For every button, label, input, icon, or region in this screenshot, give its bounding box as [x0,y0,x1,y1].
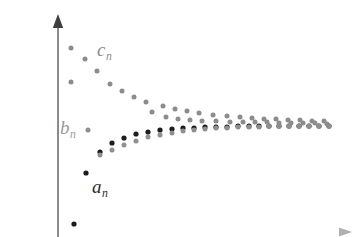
series-label-c: cn [97,40,112,63]
data-point [313,121,318,126]
data-point [71,221,76,226]
data-point [301,121,306,126]
series-label-a-base: a [92,176,102,197]
data-point [225,126,230,131]
data-point [253,120,258,125]
data-point [133,131,138,136]
data-point [132,95,137,100]
series-label-b-base: b [60,117,70,138]
data-point [200,119,205,124]
data-point [69,46,74,51]
series-a-n [71,123,331,226]
data-point [297,124,302,129]
data-point [277,121,282,126]
data-point [214,126,219,131]
data-point [109,140,114,145]
data-point [83,170,88,175]
data-point [181,129,186,134]
data-point [83,57,88,62]
series-b-n [86,124,332,158]
data-point [211,113,216,118]
horizontal-axis-arrowhead [339,228,352,237]
data-point [121,135,126,140]
data-point [161,104,166,109]
plot-canvas [0,0,359,237]
convergence-diagram: cn bn an [0,0,359,237]
data-point [197,111,202,116]
series-label-b: bn [60,118,76,141]
data-point [176,117,181,122]
data-point [185,109,190,114]
data-point [325,122,330,127]
data-point [192,128,197,133]
series-label-c-subscript: n [105,50,111,63]
data-point [238,115,243,120]
data-point [225,114,230,119]
data-point [274,117,279,122]
data-point [145,129,150,134]
data-point [134,139,139,144]
data-point [146,135,151,140]
data-point [69,80,74,85]
series-label-b-subscript: n [70,128,76,141]
data-point [120,89,125,94]
data-point [95,69,100,74]
data-point [122,143,127,148]
data-point [86,128,91,133]
data-point [157,127,162,132]
data-point [188,118,193,123]
data-point [257,125,262,130]
data-point [173,107,178,112]
data-point [158,133,163,138]
data-point [164,115,169,120]
data-point [250,116,255,121]
data-point [247,125,252,130]
series-label-a: an [92,177,108,200]
data-point [214,119,219,124]
data-point [265,120,270,125]
data-point [236,125,241,130]
vertical-axis-arrowhead [53,14,63,28]
data-point [144,100,149,105]
data-point [108,82,113,87]
data-point [241,120,246,125]
data-point [289,121,294,126]
data-point [317,124,322,129]
data-point [203,127,208,132]
data-point [307,124,312,129]
series-label-a-subscript: n [102,187,108,200]
data-point [170,131,175,136]
data-point [98,153,103,158]
data-point [150,110,155,115]
data-point [228,120,233,125]
data-point [110,148,115,153]
